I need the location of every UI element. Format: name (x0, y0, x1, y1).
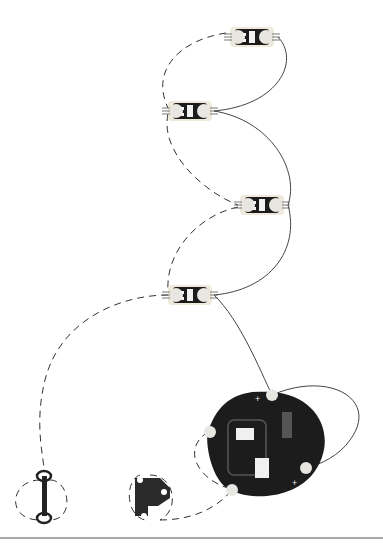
led-sequin-icon (162, 285, 218, 305)
led-sequin-icon (162, 101, 218, 121)
plus-label: + (292, 478, 297, 488)
hook-icon (135, 477, 170, 519)
plus-label: + (255, 394, 260, 404)
eye-icon (37, 471, 51, 523)
led-sequin-icon (224, 27, 280, 47)
led-sequin-icon (234, 195, 290, 215)
battery-board-icon: + + (204, 389, 325, 496)
circuit-diagram: + + (0, 0, 383, 554)
